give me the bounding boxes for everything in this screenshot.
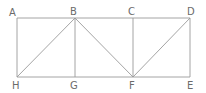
label-B: B <box>70 6 77 17</box>
label-C: C <box>128 6 135 17</box>
geometry-diagram: ABCDHGFE <box>0 0 206 93</box>
label-E: E <box>187 80 193 91</box>
point-labels: ABCDHGFE <box>9 6 195 91</box>
segment-BF <box>75 18 133 77</box>
label-D: D <box>187 6 195 17</box>
line-segments <box>17 18 190 77</box>
label-A: A <box>9 7 16 18</box>
segment-HB <box>17 18 75 77</box>
label-G: G <box>70 80 78 91</box>
label-F: F <box>129 80 135 91</box>
segment-FD <box>133 18 190 77</box>
label-H: H <box>12 80 20 91</box>
